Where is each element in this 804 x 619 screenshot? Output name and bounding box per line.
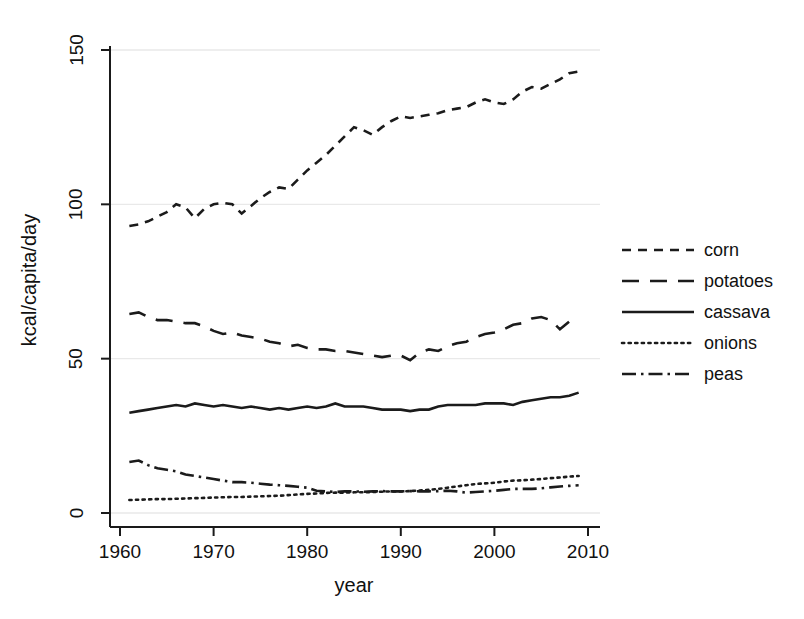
x-tick-label: 2000 (473, 541, 515, 562)
legend-label-corn: corn (704, 240, 739, 260)
legend-label-peas: peas (704, 364, 743, 384)
x-tick-label: 1960 (99, 541, 141, 562)
x-axis-title: year (335, 574, 374, 596)
line-chart: 196019701980199020002010 050100150 year … (0, 0, 804, 619)
y-tick-label: 50 (66, 348, 87, 369)
x-tick-label: 1990 (380, 541, 422, 562)
y-tick-label: 150 (66, 34, 87, 66)
x-tick-label: 1970 (192, 541, 234, 562)
y-tick-label: 0 (66, 508, 87, 519)
x-tick-label: 1980 (286, 541, 328, 562)
chart-figure: 196019701980199020002010 050100150 year … (0, 0, 804, 619)
y-axis-title: kcal/capita/day (18, 214, 40, 346)
legend-label-potatoes: potatoes (704, 271, 773, 291)
y-tick-label: 100 (66, 188, 87, 220)
legend-label-cassava: cassava (704, 302, 771, 322)
legend-label-onions: onions (704, 333, 757, 353)
x-tick-label: 2010 (567, 541, 609, 562)
